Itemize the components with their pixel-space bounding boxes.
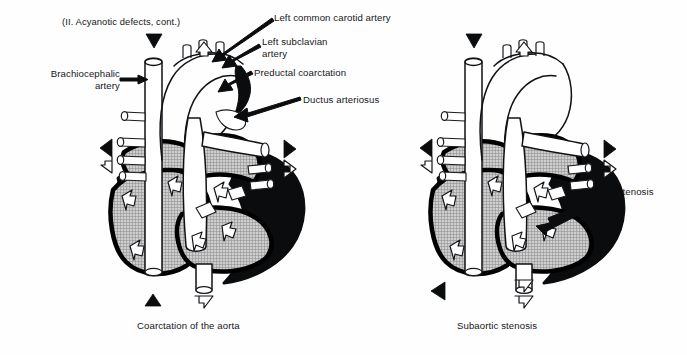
- arrow-black-left-upper: [100, 139, 112, 157]
- illustration-page: (II. Acyanotic defects, cont.) Brachioce…: [0, 0, 687, 355]
- arrow-black-right-upper: [284, 140, 296, 158]
- arrow-black-down-top: [146, 34, 162, 48]
- arrow-black-left-bottom-right: [431, 282, 445, 300]
- diagram-subaortic-stenosis: [420, 34, 624, 308]
- arrow-white-down-bottom-right: [515, 296, 533, 308]
- diagram-coarctation-of-the-aorta: [100, 18, 304, 308]
- arrow-black-down-top-right: [466, 34, 482, 48]
- arrow-black-left-upper-right: [420, 139, 432, 157]
- arrow-black-up-bottom-left: [145, 294, 161, 306]
- arrow-black-right-upper-right: [604, 140, 616, 158]
- arrow-white-left-lower: [101, 157, 112, 173]
- arrow-white-left-lower-right: [421, 157, 432, 173]
- leader-left-subclavian: [222, 44, 261, 68]
- heart-diagrams-artwork: [0, 0, 687, 355]
- arrow-white-down-bottom: [195, 296, 213, 308]
- leader-brachiocephalic: [120, 75, 148, 84]
